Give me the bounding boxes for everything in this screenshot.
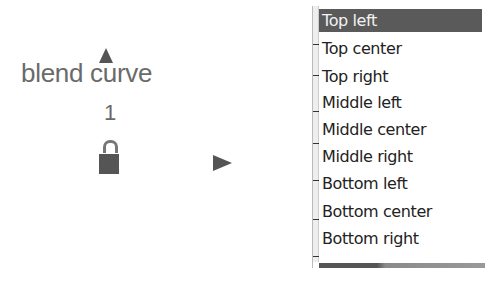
option-top-left[interactable]: Top left	[319, 9, 482, 32]
node-title: blend curve	[21, 58, 152, 89]
horizontal-scrollbar[interactable]	[319, 263, 485, 268]
option-bottom-left[interactable]: Bottom left	[319, 172, 407, 195]
option-middle-left[interactable]: Middle left	[319, 91, 401, 114]
option-bottom-right[interactable]: Bottom right	[319, 227, 419, 250]
lock-body	[99, 154, 119, 174]
node-value[interactable]: 1	[104, 100, 116, 126]
ruler-tick	[313, 256, 319, 257]
option-top-center[interactable]: Top center	[319, 37, 402, 60]
blend-curve-node: blend curve 1	[0, 0, 250, 283]
play-arrow-icon[interactable]	[213, 155, 232, 171]
option-bottom-center[interactable]: Bottom center	[319, 200, 432, 223]
option-middle-center[interactable]: Middle center	[319, 118, 426, 141]
unlocked-padlock-icon[interactable]	[99, 140, 121, 176]
option-top-right[interactable]: Top right	[319, 65, 388, 88]
lock-shackle	[103, 140, 118, 153]
option-middle-right[interactable]: Middle right	[319, 145, 413, 168]
alignment-dropdown-list[interactable]: Top left Top center Top right Middle lef…	[312, 6, 485, 268]
ruler-tick	[313, 143, 319, 144]
